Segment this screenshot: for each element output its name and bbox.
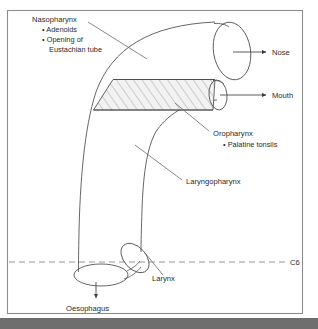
oropharynx-bullet-palatine-tonsils: • Palatine tonsils <box>223 140 278 149</box>
c6-label: C6 <box>290 258 300 267</box>
nasopharynx-bullet-eustachian: Eustachian tube <box>49 45 102 54</box>
pharynx-diagram-svg: Nasopharynx • Adenoids • Opening of Eust… <box>0 0 318 329</box>
oropharynx-label: Oropharynx <box>213 129 253 138</box>
nasopharynx-label: Nasopharynx <box>32 15 77 24</box>
nasopharynx-bullet-adenoids: • Adenoids <box>42 25 77 34</box>
nasopharynx-bullet-opening: • Opening of <box>42 35 84 44</box>
larynx-label: Larynx <box>152 274 175 283</box>
pharynx-diagram-figure: Nasopharynx • Adenoids • Opening of Eust… <box>0 0 318 329</box>
laryngopharynx-label: Laryngopharynx <box>186 177 241 186</box>
mouth-label: Mouth <box>272 91 293 100</box>
bottom-gray-bar <box>0 318 318 329</box>
oesophagus-label: Oesophagus <box>66 304 109 313</box>
oropharynx-hatched-band <box>94 80 216 111</box>
nose-label: Nose <box>272 48 290 57</box>
